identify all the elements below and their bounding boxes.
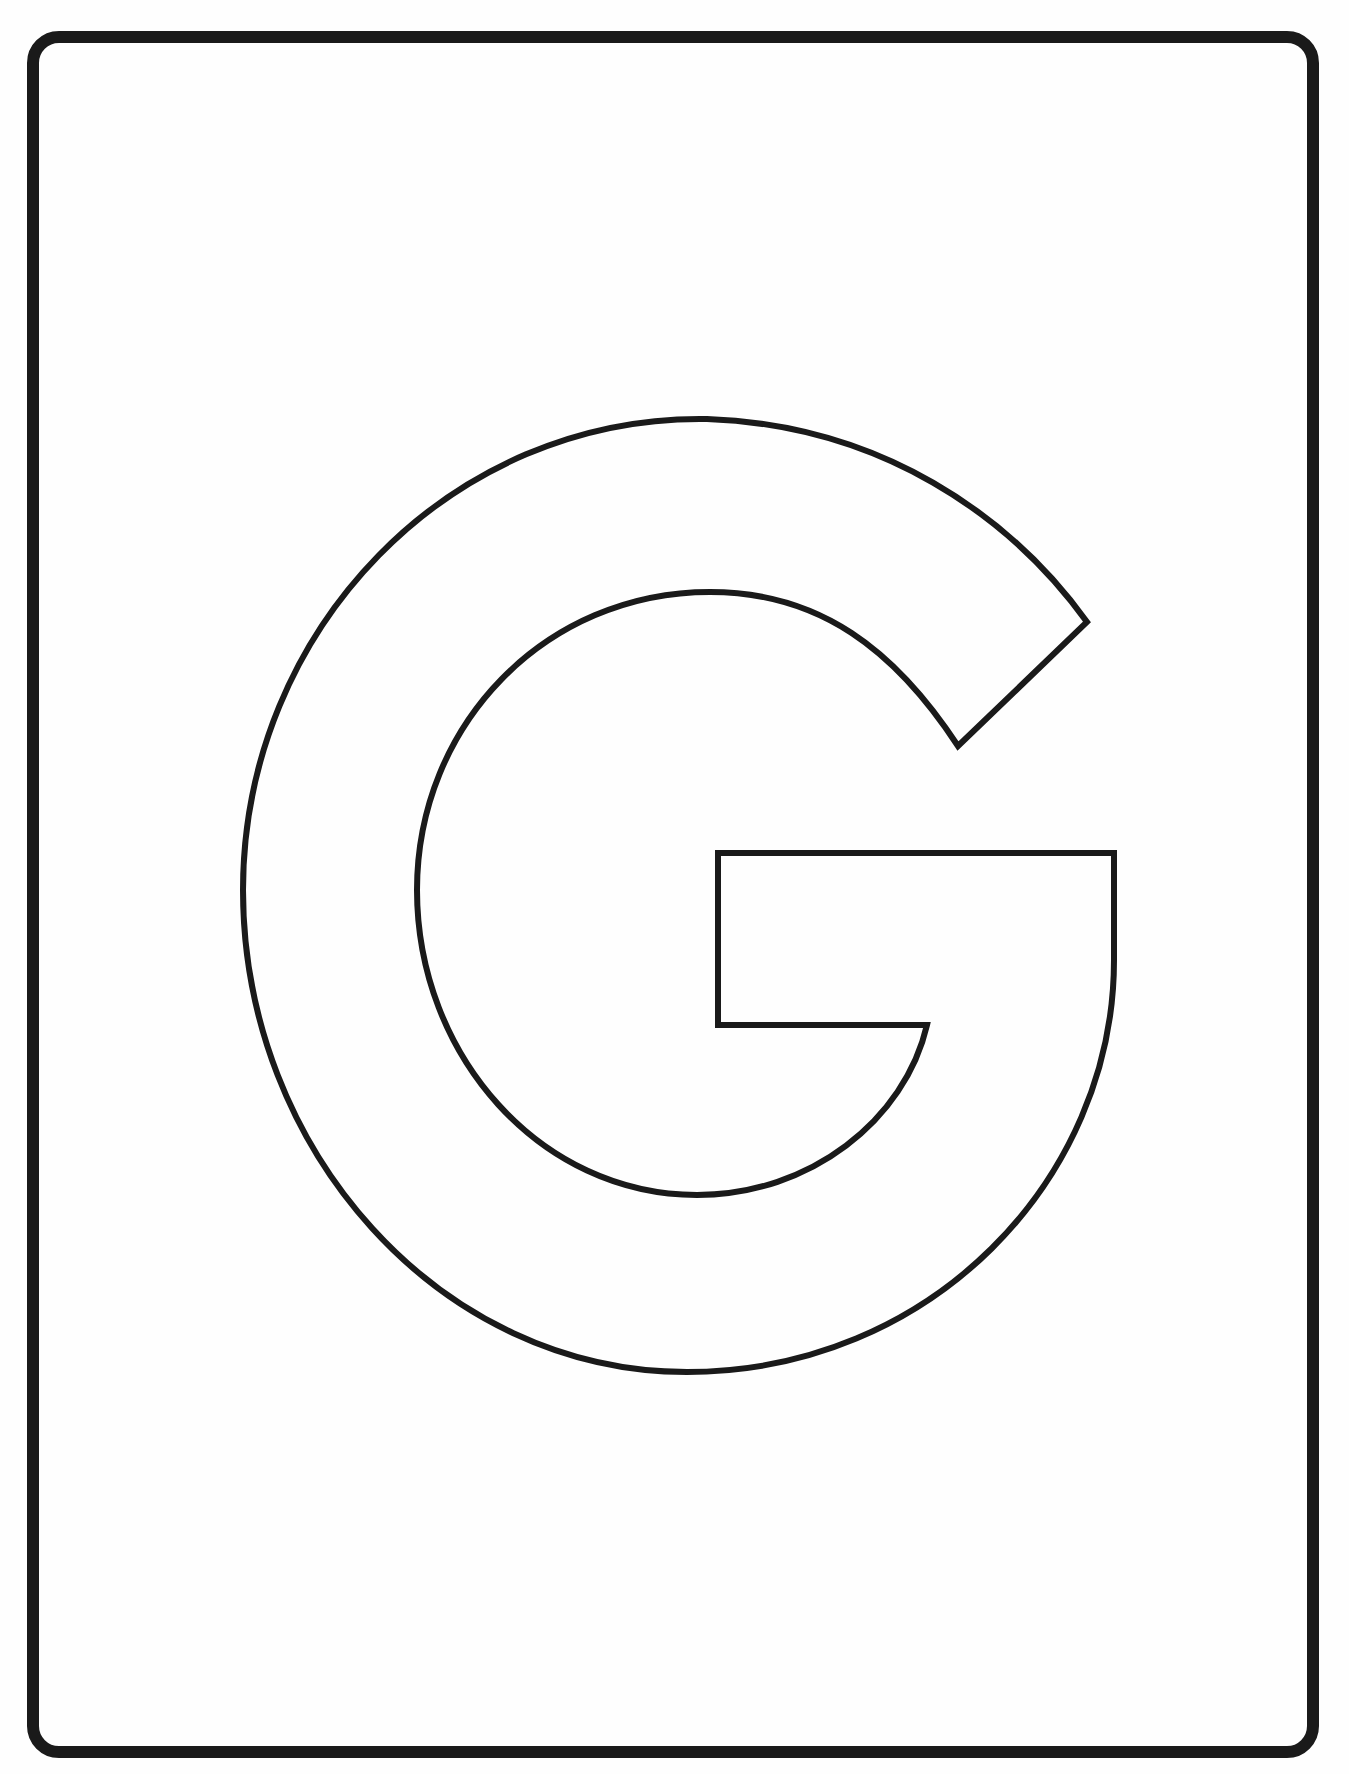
letter-g-path [243, 419, 1114, 1372]
coloring-page: G [0, 0, 1349, 1774]
letter-g-outline-icon [0, 0, 1349, 1774]
